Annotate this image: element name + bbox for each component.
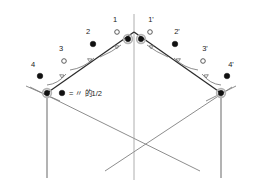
eave-node-right [218,90,223,95]
node-2-prime[interactable]: 2' [172,27,180,47]
arrow-head-1p [149,46,153,49]
diagram-canvas: 1 2 3 4 1' 2' 3' 4' [0,0,259,187]
roof-frame-diagram: 1 2 3 4 1' 2' 3' 4' [0,0,259,187]
arrow-group-right [147,45,221,85]
floor-diagonal-left [30,87,200,171]
eave-node-left [44,90,49,95]
node-1-prime-label: 1' [148,15,154,24]
rafter-left [47,32,134,93]
node-1-marker [115,30,120,35]
node-4-marker [37,73,43,79]
node-3-prime-marker [201,59,206,64]
arrow-curve-1 [100,45,121,57]
legend-label: = 〃 的1/2 [69,88,102,98]
node-2-marker [90,41,96,47]
node-4[interactable]: 4 [31,60,43,79]
floor-diagonal-right [105,87,232,171]
ridge-node-group [124,35,146,44]
node-2-label: 2 [86,27,90,36]
arrow-curve-1p [147,45,168,57]
node-4-prime-marker [224,73,230,79]
node-2-prime-marker [172,41,178,47]
legend-dot-icon [59,90,65,96]
perspective-frame [26,14,236,180]
node-1-prime[interactable]: 1' [148,15,155,34]
node-2[interactable]: 2 [86,27,96,47]
node-3-prime[interactable]: 3' [201,44,209,63]
arrow-head-1 [115,46,119,49]
node-3-label: 3 [59,44,63,53]
rafter-right [134,32,221,93]
node-2-prime-label: 2' [174,27,180,36]
node-3[interactable]: 3 [59,44,66,63]
node-1-label: 1 [113,15,117,24]
ridge-node-left [125,36,130,41]
node-4-prime[interactable]: 4' [224,60,234,79]
node-1[interactable]: 1 [113,15,119,34]
node-4-label: 4 [31,60,35,69]
legend: = 〃 的1/2 [59,88,102,98]
node-3-marker [62,59,67,64]
node-1-prime-marker [148,30,153,35]
node-3-prime-label: 3' [202,44,208,53]
node-4-prime-label: 4' [228,60,234,69]
ridge-node-right [138,36,143,41]
